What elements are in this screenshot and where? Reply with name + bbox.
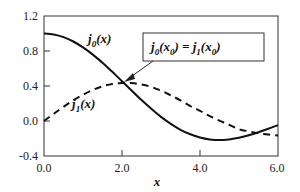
y-tick-label: 1.2	[23, 9, 38, 23]
x-tick-label: 0.0	[37, 161, 52, 175]
y-axis: 1.2 0.8 0.4 0.0 -0.4	[19, 9, 50, 163]
x-tick-label: 2.0	[115, 161, 130, 175]
y-tick-label: -0.4	[19, 149, 38, 163]
y-tick-label: 0.8	[23, 44, 38, 58]
x-tick-label: 6.0	[270, 161, 285, 175]
arrowhead-icon	[124, 73, 135, 82]
crossing-annotation: j0(x0) = j1(x0)	[124, 33, 264, 82]
j0-label: j0(x)	[86, 31, 111, 49]
x-tick-label: 4.0	[193, 161, 208, 175]
j1-label: j1(x)	[70, 96, 95, 114]
bessel-function-chart: 1.2 0.8 0.4 0.0 -0.4 0.0 2.0 4.0 6.0 x j…	[0, 0, 300, 192]
y-tick-label: 0.0	[23, 114, 38, 128]
x-axis-label: x	[153, 174, 161, 189]
y-tick-label: 0.4	[23, 79, 38, 93]
